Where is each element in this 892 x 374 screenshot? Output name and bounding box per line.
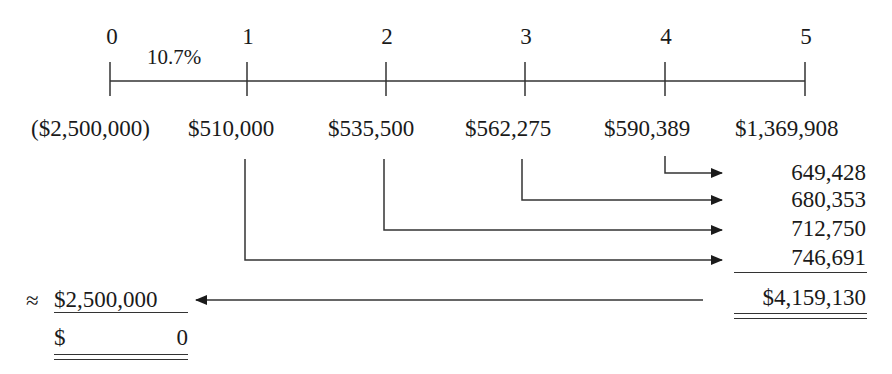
cash-flow-3: $562,275 (465, 116, 551, 142)
future-value-period-1: 746,691 (791, 245, 866, 271)
period-label-3: 3 (520, 24, 532, 50)
arrow-period-2 (384, 159, 722, 230)
npv-double-underline-1 (54, 354, 188, 355)
subtotal-underline (734, 272, 867, 273)
future-value-total: $4,159,130 (763, 285, 867, 311)
cash-flow-0: ($2,500,000) (31, 116, 150, 142)
present-value-underline (54, 312, 188, 313)
arrow-period-3 (522, 159, 722, 200)
timeline-axis (110, 62, 805, 96)
period-label-4: 4 (660, 24, 672, 50)
npv-value: 0 (54, 325, 188, 351)
period-label-2: 2 (381, 24, 393, 50)
arrow-period-1 (245, 159, 722, 260)
period-label-1: 1 (242, 24, 254, 50)
cash-flow-1: $510,000 (188, 116, 274, 142)
cash-flow-5: $1,369,908 (735, 116, 839, 142)
future-value-period-2: 712,750 (791, 216, 866, 242)
approx-symbol: ≈ (26, 288, 39, 314)
arrow-period-4 (665, 156, 722, 173)
future-value-period-3: 680,353 (791, 187, 866, 213)
total-double-underline-1 (734, 313, 867, 314)
interest-rate-label: 10.7% (147, 44, 201, 70)
total-double-underline-2 (734, 318, 867, 319)
period-label-0: 0 (106, 24, 118, 50)
cash-flow-timeline-diagram: 0 1 2 3 4 5 10.7% ($2,500,000) $510,000 … (0, 0, 892, 374)
present-value: $2,500,000 (54, 287, 158, 313)
future-value-period-4: 649,428 (791, 160, 866, 186)
npv-double-underline-2 (54, 359, 188, 360)
cash-flow-2: $535,500 (328, 116, 414, 142)
period-label-5: 5 (800, 24, 812, 50)
cash-flow-4: $590,389 (604, 116, 690, 142)
